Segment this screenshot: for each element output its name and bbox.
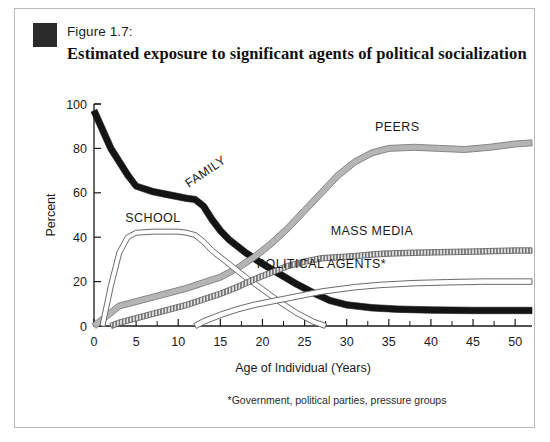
svg-text:20: 20 (73, 275, 87, 289)
chart-axes: 020406080100Percent05101520253035404550A… (44, 98, 532, 376)
figure-caption: Figure 1.7: Estimated exposure to signif… (67, 23, 537, 65)
chart-plot-area: 020406080100Percent05101520253035404550A… (29, 75, 550, 431)
svg-text:25: 25 (298, 335, 312, 349)
svg-text:5: 5 (133, 335, 140, 349)
figure-frame: Figure 1.7: Estimated exposure to signif… (14, 8, 535, 428)
svg-text:80: 80 (73, 142, 87, 156)
svg-text:40: 40 (424, 335, 438, 349)
svg-text:0: 0 (91, 335, 98, 349)
svg-text:35: 35 (382, 335, 396, 349)
figure-number: Figure 1.7: (67, 23, 537, 41)
series-label-mass-media: MASS MEDIA (331, 224, 414, 238)
page-title: Estimated exposure to significant agents… (67, 43, 537, 65)
svg-text:20: 20 (256, 335, 270, 349)
socialization-line-chart: 020406080100Percent05101520253035404550A… (29, 75, 550, 431)
svg-text:45: 45 (466, 335, 480, 349)
svg-text:100: 100 (66, 98, 87, 112)
svg-text:15: 15 (213, 335, 227, 349)
chart-annotations: *Government, political parties, pressure… (228, 394, 447, 406)
svg-text:40: 40 (73, 231, 87, 245)
series-label-political-agents: POLITICAL AGENTS* (257, 257, 386, 271)
figure-footnote: *Government, political parties, pressure… (228, 394, 447, 406)
svg-text:30: 30 (340, 335, 354, 349)
svg-text:10: 10 (171, 335, 185, 349)
svg-text:60: 60 (73, 186, 87, 200)
figure-corner-marker (33, 23, 57, 47)
series-label-school: SCHOOL (125, 211, 180, 225)
series-label-family: FAMILY (183, 153, 229, 190)
svg-text:Age of Individual (Years): Age of Individual (Years) (235, 361, 371, 375)
svg-text:50: 50 (508, 335, 522, 349)
series-label-peers: PEERS (375, 120, 419, 134)
svg-text:Percent: Percent (44, 193, 58, 237)
svg-text:0: 0 (80, 320, 87, 334)
